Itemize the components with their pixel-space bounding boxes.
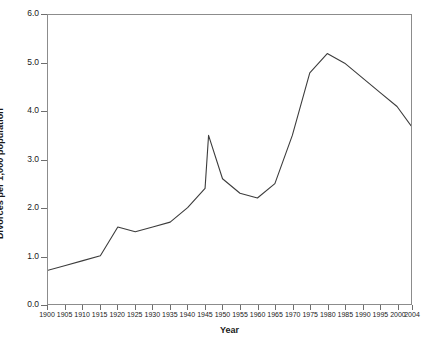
x-tick-label: 1975 [302, 311, 318, 318]
x-tick-label: 1965 [267, 311, 283, 318]
x-tick-mark [117, 305, 118, 310]
x-tick-mark [135, 305, 136, 310]
x-tick-mark [82, 305, 83, 310]
y-tick-mark [41, 257, 47, 258]
y-tick-label: 6.0 [27, 8, 39, 18]
x-tick-mark [222, 305, 223, 310]
y-axis-title-text: Divorces per 1,000 population [0, 108, 19, 239]
x-tick-mark [398, 305, 399, 310]
x-axis-title-text: Year [220, 325, 239, 335]
x-tick-mark [100, 305, 101, 310]
x-tick-mark [187, 305, 188, 310]
x-tick-label: 1920 [109, 311, 125, 318]
x-tick-label: 1955 [232, 311, 248, 318]
x-tick-label: 1945 [197, 311, 213, 318]
x-tick-mark [363, 305, 364, 310]
x-tick-mark [240, 305, 241, 310]
y-tick-mark [41, 208, 47, 209]
x-tick-mark [47, 305, 48, 310]
x-tick-label: 1905 [57, 311, 73, 318]
x-tick-mark [170, 305, 171, 310]
y-tick-label: 5.0 [27, 57, 39, 67]
x-tick-label: 1915 [92, 311, 108, 318]
y-tick-mark [41, 160, 47, 161]
x-tick-label: 1935 [162, 311, 178, 318]
x-tick-label: 1950 [215, 311, 231, 318]
y-tick-label: 4.0 [27, 105, 39, 115]
x-tick-mark [258, 305, 259, 310]
x-tick-label: 1925 [127, 311, 143, 318]
x-tick-mark [275, 305, 276, 310]
x-tick-label: 1990 [355, 311, 371, 318]
x-tick-mark [205, 305, 206, 310]
data-line-series [48, 15, 411, 304]
x-tick-label: 2004 [404, 311, 420, 318]
x-axis-title: Year [47, 325, 412, 335]
x-tick-mark [328, 305, 329, 310]
x-tick-label: 1900 [39, 311, 55, 318]
y-tick-mark [41, 14, 47, 15]
x-tick-label: 1960 [250, 311, 266, 318]
x-tick-mark [310, 305, 311, 310]
x-tick-label: 1910 [74, 311, 90, 318]
y-tick-label: 2.0 [27, 202, 39, 212]
x-tick-label: 1970 [285, 311, 301, 318]
x-tick-mark [380, 305, 381, 310]
divorce-rate-polyline [48, 54, 411, 271]
x-tick-label: 1985 [338, 311, 354, 318]
x-tick-mark [152, 305, 153, 310]
x-tick-mark [293, 305, 294, 310]
plot-area [47, 14, 412, 305]
x-tick-mark [65, 305, 66, 310]
x-tick-mark [412, 305, 413, 310]
x-tick-label: 1995 [373, 311, 389, 318]
y-axis-title: Divorces per 1,000 population [0, 0, 14, 347]
y-tick-mark [41, 111, 47, 112]
divorce-rate-line-chart: Divorces per 1,000 population 0.01.02.03… [0, 0, 426, 347]
y-tick-label: 3.0 [27, 154, 39, 164]
y-tick-label: 1.0 [27, 251, 39, 261]
y-tick-mark [41, 63, 47, 64]
x-tick-label: 1940 [180, 311, 196, 318]
x-tick-label: 1930 [144, 311, 160, 318]
y-tick-label: 0.0 [27, 299, 39, 309]
x-tick-label: 1980 [320, 311, 336, 318]
x-tick-mark [345, 305, 346, 310]
